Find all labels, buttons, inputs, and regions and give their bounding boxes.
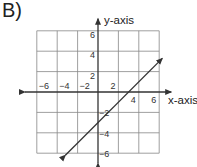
coordinate-plane: −6−4−2246642−2−4−6 x-axis y-axis xyxy=(0,0,197,167)
x-tick-label: −4 xyxy=(59,81,69,91)
plotted-line xyxy=(65,58,162,155)
axes xyxy=(25,19,171,163)
x-axis-label: x-axis xyxy=(168,94,197,106)
y-tick-label: 6 xyxy=(90,30,95,40)
x-tick-label: 2 xyxy=(110,81,115,91)
x-tick-label: −6 xyxy=(39,81,49,91)
line-y-equals-x-minus-3 xyxy=(65,58,162,155)
x-tick-label: 6 xyxy=(151,95,156,105)
x-tick-label: −2 xyxy=(80,81,90,91)
y-tick-label: −6 xyxy=(99,149,109,159)
y-tick-label: 4 xyxy=(90,50,95,60)
y-tick-label: −4 xyxy=(99,129,109,139)
x-tick-label: 4 xyxy=(131,95,136,105)
y-axis-label: y-axis xyxy=(104,14,134,26)
y-tick-label: 2 xyxy=(90,71,95,81)
